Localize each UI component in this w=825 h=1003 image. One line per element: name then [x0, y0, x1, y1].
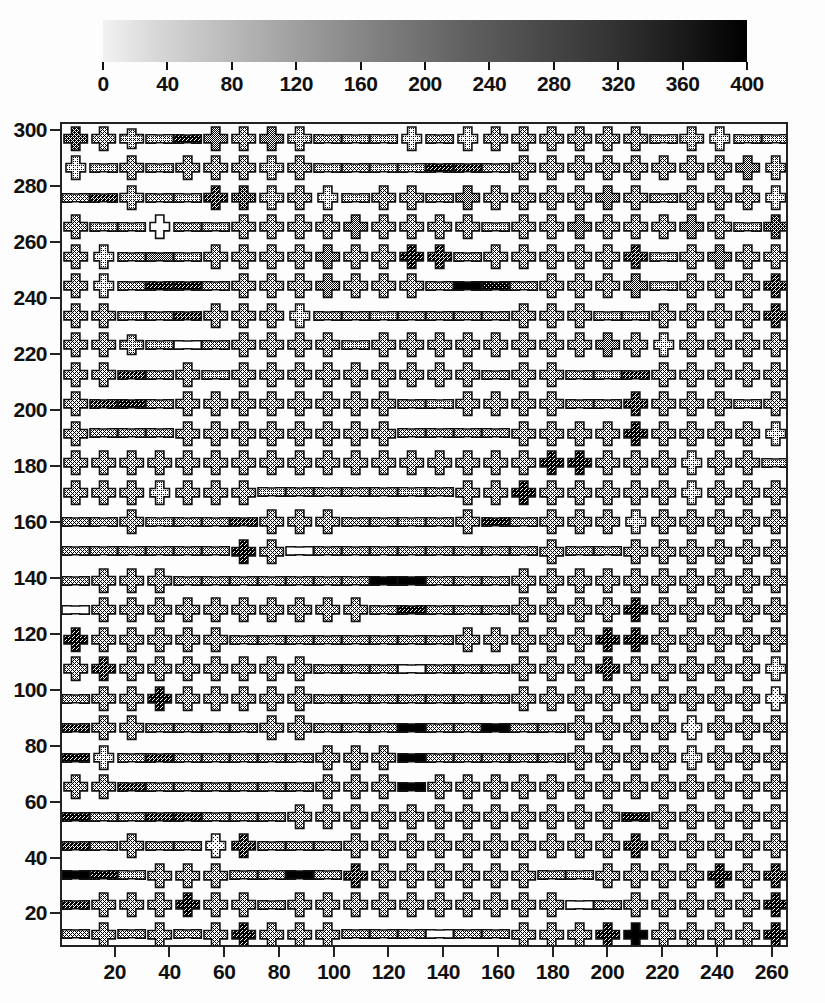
- data-glyph: [705, 920, 734, 947]
- data-glyph: [761, 713, 788, 742]
- data-glyph: [397, 861, 426, 890]
- x-axis-tick-label: 200: [591, 960, 625, 984]
- data-glyph: [285, 713, 314, 742]
- data-glyph: [537, 654, 566, 683]
- data-glyph: [313, 920, 342, 947]
- data-glyph: [201, 595, 230, 624]
- data-glyph: [311, 868, 344, 882]
- data-glyph: [341, 271, 370, 300]
- data-glyph: [565, 124, 594, 153]
- data-glyph: [313, 419, 342, 448]
- data-glyph: [423, 191, 456, 205]
- data-glyph: [60, 721, 93, 735]
- data-glyph: [761, 920, 788, 947]
- data-glyph: [649, 743, 678, 772]
- data-glyph: [565, 743, 594, 772]
- y-axis-tick-label: 40: [25, 846, 47, 870]
- y-axis-tick-label: 140: [13, 566, 47, 590]
- data-glyph: [257, 537, 286, 566]
- y-axis-tick: [50, 521, 60, 523]
- data-glyph: [117, 625, 146, 654]
- data-glyph: [621, 920, 650, 947]
- y-axis-tick: [50, 129, 60, 131]
- data-glyph: [677, 654, 706, 683]
- data-glyph: [479, 368, 512, 382]
- data-glyph: [61, 212, 90, 241]
- data-glyph: [117, 507, 146, 536]
- data-glyph: [479, 574, 512, 588]
- data-glyph: [509, 478, 538, 507]
- data-glyph: [201, 301, 230, 330]
- data-glyph: [733, 890, 762, 919]
- data-glyph: [481, 242, 510, 271]
- data-glyph: [229, 831, 258, 860]
- x-axis-tick-label: 140: [426, 960, 460, 984]
- y-axis-tick-label: 240: [13, 286, 47, 310]
- data-glyph: [369, 448, 398, 477]
- data-glyph: [537, 625, 566, 654]
- data-glyph: [593, 654, 622, 683]
- data-glyph: [677, 153, 706, 182]
- data-glyph: [705, 802, 734, 831]
- data-glyph: [761, 890, 788, 919]
- data-glyph: [593, 772, 622, 801]
- data-glyph: [89, 920, 118, 947]
- y-axis-tick: [50, 745, 60, 747]
- x-axis-tick: [606, 947, 608, 957]
- data-glyph: [425, 772, 454, 801]
- data-glyph: [649, 831, 678, 860]
- data-glyph: [397, 448, 426, 477]
- y-axis-tick: [50, 633, 60, 635]
- data-glyph: [60, 692, 93, 706]
- data-glyph: [535, 751, 568, 765]
- data-glyph: [89, 124, 118, 153]
- colorbar-tick: [682, 62, 684, 70]
- data-glyph: [649, 448, 678, 477]
- data-glyph: [733, 301, 762, 330]
- x-axis-tick: [661, 947, 663, 957]
- data-glyph: [537, 802, 566, 831]
- data-glyph: [565, 684, 594, 713]
- data-glyph: [257, 271, 286, 300]
- data-glyph: [621, 861, 650, 890]
- data-glyph: [509, 802, 538, 831]
- data-glyph: [425, 330, 454, 359]
- data-glyph: [761, 772, 788, 801]
- x-axis-tick-label: 260: [755, 960, 789, 984]
- data-glyph: [285, 448, 314, 477]
- data-glyph: [761, 537, 788, 566]
- data-glyph: [733, 684, 762, 713]
- colorbar-tick-marks: [0, 62, 825, 72]
- data-glyph: [87, 839, 120, 853]
- data-glyph: [705, 743, 734, 772]
- colorbar-tick-label: 160: [344, 72, 378, 96]
- data-glyph: [537, 212, 566, 241]
- data-glyph: [341, 861, 370, 890]
- data-glyph: [89, 713, 118, 742]
- y-axis-tick-label: 180: [13, 454, 47, 478]
- data-glyph: [285, 802, 314, 831]
- data-glyph: [115, 220, 148, 234]
- data-glyph: [649, 772, 678, 801]
- data-glyph: [285, 507, 314, 536]
- data-glyph: [143, 426, 176, 440]
- data-glyph: [143, 397, 176, 411]
- data-glyph: [257, 507, 286, 536]
- data-glyph: [397, 271, 426, 300]
- data-glyph: [647, 191, 680, 205]
- data-glyph: [423, 633, 456, 647]
- data-glyph: [173, 448, 202, 477]
- data-glyph: [89, 448, 118, 477]
- data-glyph: [313, 507, 342, 536]
- data-glyph: [537, 124, 566, 153]
- x-axis-tick-label: 40: [158, 960, 180, 984]
- data-glyph: [677, 861, 706, 890]
- data-glyph: [509, 124, 538, 153]
- plot-area[interactable]: [60, 122, 788, 947]
- data-glyph: [621, 124, 650, 153]
- y-axis-tick-label: 20: [25, 901, 47, 925]
- data-glyph: [257, 153, 286, 182]
- data-glyph: [677, 920, 706, 947]
- data-glyph: [679, 448, 705, 477]
- data-glyph: [425, 831, 454, 860]
